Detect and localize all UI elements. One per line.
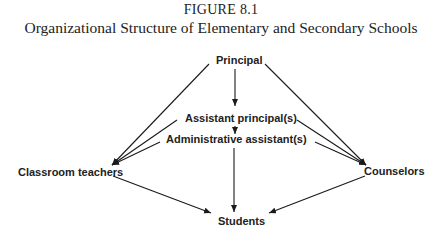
edge-admin-counselors: [315, 142, 366, 165]
edge-counselors-students: [269, 176, 365, 213]
edge-admin-teachers: [112, 142, 160, 165]
edge-teachers-students: [113, 176, 211, 213]
node-counselors: Counselors: [364, 165, 425, 177]
node-principal: Principal: [216, 54, 262, 66]
node-classroom-teachers: Classroom teachers: [18, 166, 123, 178]
node-administrative-assistant: Administrative assistant(s): [166, 133, 307, 145]
edge-assistant-counselors: [297, 120, 366, 165]
node-students: Students: [218, 215, 265, 227]
node-assistant-principal: Assistant principal(s): [185, 112, 297, 124]
